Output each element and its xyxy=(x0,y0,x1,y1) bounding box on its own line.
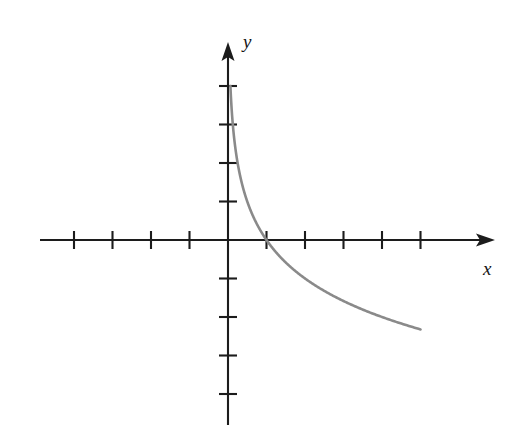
coordinate-plane-svg: y x xyxy=(0,0,515,448)
y-axis-label: y xyxy=(241,31,252,52)
graph-figure: y x xyxy=(0,0,515,448)
x-axis-label: x xyxy=(482,258,492,279)
logarithmic-curve xyxy=(230,86,420,329)
